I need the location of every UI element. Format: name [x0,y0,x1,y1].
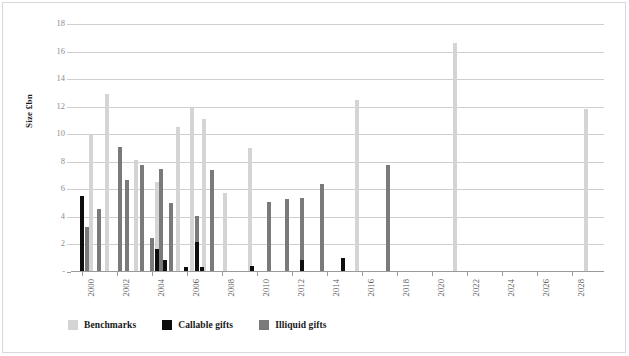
y-tick-mark-6 [67,189,71,190]
legend-swatch-icon [68,320,78,330]
x-tick-mark-2012 [292,272,293,276]
y-tick-label-18: 18 [37,19,65,28]
x-tick-label-2026: 2026 [541,279,551,296]
bar [85,227,89,272]
y-tick-mark-4 [67,217,71,218]
x-tick-mark-2000 [82,272,83,276]
x-tick-label-2000: 2000 [86,279,96,296]
gridline-8 [71,162,604,163]
bar [453,43,457,272]
bar [159,169,163,272]
gridline-18 [71,24,604,25]
bar [210,170,214,272]
y-axis-label: Size £bn [24,94,34,128]
y-tick-mark-2 [67,244,71,245]
x-tick-mark-2004 [152,272,153,276]
bar [118,147,122,272]
bar [155,249,159,272]
bar [223,193,227,272]
x-tick-mark-2028 [572,272,573,276]
y-tick-label-8: 8 [37,157,65,166]
gridline-12 [71,107,604,108]
bar [355,100,359,272]
bar [140,165,144,272]
bar [584,109,588,272]
x-tick-label-2002: 2002 [121,279,131,296]
y-tick-mark-16 [67,52,71,53]
gridline-16 [71,52,604,53]
bar [125,180,129,272]
x-tick-mark-2008 [222,272,223,276]
x-axis: 2000200220042006200820102012201420162018… [71,272,604,316]
bar [320,184,324,272]
x-tick-mark-2026 [537,272,538,276]
x-tick-label-2010: 2010 [261,279,271,296]
chart-page: Size £bn -24681012141618 200020022004200… [0,0,629,356]
y-tick-mark-10 [67,134,71,135]
bar [80,196,84,272]
x-tick-mark-2010 [257,272,258,276]
legend-label: Callable gifts [178,320,233,330]
bar [150,238,154,272]
x-tick-label-2020: 2020 [436,279,446,296]
legend-item-callable-gifts[interactable]: Callable gifts [162,320,233,330]
x-tick-mark-2016 [362,272,363,276]
x-tick-label-2028: 2028 [576,279,586,296]
bar [202,119,206,272]
y-tick-label-6: 6 [37,184,65,193]
x-tick-label-2012: 2012 [296,279,306,296]
bar [195,242,199,272]
x-tick-label-2004: 2004 [156,279,166,296]
x-tick-mark-2024 [502,272,503,276]
legend-label: Illiquid gifts [275,320,326,330]
x-tick-mark-2020 [432,272,433,276]
y-tick-mark-12 [67,107,71,108]
bar [89,134,93,272]
bar [267,202,271,272]
plot-area [71,24,604,272]
y-tick-mark-14 [67,79,71,80]
gridline-4 [71,217,604,218]
x-tick-label-2014: 2014 [331,279,341,296]
y-tick-label-4: 4 [37,212,65,221]
chart-legend: BenchmarksCallable giftsIlliquid gifts [68,320,326,330]
legend-swatch-icon [162,320,172,330]
y-tick-label-2: 2 [37,239,65,248]
x-tick-label-2024: 2024 [506,279,516,296]
gridline-10 [71,134,604,135]
legend-item-illiquid-gifts[interactable]: Illiquid gifts [259,320,326,330]
x-tick-mark-2014 [327,272,328,276]
bar [105,94,109,272]
gridline-6 [71,189,604,190]
x-tick-label-2008: 2008 [226,279,236,296]
bar [134,160,138,272]
x-tick-mark-2018 [397,272,398,276]
y-tick-label-10: 10 [37,129,65,138]
x-tick-label-2018: 2018 [401,279,411,296]
legend-label: Benchmarks [84,320,136,330]
x-tick-label-2006: 2006 [191,279,201,296]
y-tick-label-12: 12 [37,102,65,111]
bar [386,165,390,272]
x-tick-mark-2022 [467,272,468,276]
legend-item-benchmarks[interactable]: Benchmarks [68,320,136,330]
x-tick-mark-2006 [187,272,188,276]
y-tick-mark-8 [67,162,71,163]
gridline-14 [71,79,604,80]
y-tick-label-16: 16 [37,47,65,56]
bar [341,258,345,272]
bar [97,209,101,272]
bar [169,203,173,272]
x-tick-label-2016: 2016 [366,279,376,296]
y-tick-label-14: 14 [37,74,65,83]
legend-swatch-icon [259,320,269,330]
bar [176,127,180,272]
bar [190,107,194,272]
x-tick-mark-2002 [117,272,118,276]
x-tick-label-2022: 2022 [471,279,481,296]
y-tick-label-0: - [37,267,65,276]
bar [285,199,289,272]
y-tick-mark-18 [67,24,71,25]
bar [248,148,252,272]
